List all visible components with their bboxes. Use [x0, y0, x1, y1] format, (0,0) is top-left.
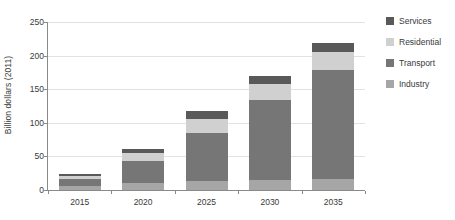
stacked-bar-chart: Billion dollars (2011) 050100150200250 S… — [0, 0, 455, 220]
legend-swatch-services — [386, 17, 394, 25]
bar-segment-services-2030[interactable] — [249, 76, 291, 84]
y-axis-tick-mark — [44, 190, 47, 191]
x-axis-tick-label-2025: 2025 — [197, 197, 216, 207]
legend-item-residential[interactable]: Residential — [386, 31, 455, 52]
bar-segment-services-2025[interactable] — [186, 111, 228, 118]
bar-group-2015[interactable] — [59, 22, 101, 190]
legend-item-transport[interactable]: Transport — [386, 52, 455, 73]
legend-item-industry[interactable]: Industry — [386, 73, 455, 94]
bar-segment-industry-2035[interactable] — [312, 179, 354, 190]
y-axis-tick-labels: 050100150200250 — [14, 22, 44, 190]
bar-segment-transport-2035[interactable] — [312, 70, 354, 180]
x-axis-tick-label-2015: 2015 — [70, 197, 89, 207]
x-axis-tick-mark — [302, 191, 303, 194]
bar-segment-residential-2015[interactable] — [59, 176, 101, 179]
x-axis-tick-label-2020: 2020 — [134, 197, 153, 207]
bar-group-2035[interactable] — [312, 22, 354, 190]
y-axis-tick-label: 0 — [18, 185, 44, 195]
bar-group-2025[interactable] — [186, 22, 228, 190]
y-axis-tick-mark — [44, 56, 47, 57]
bar-group-2020[interactable] — [122, 22, 164, 190]
legend-label-industry: Industry — [399, 79, 429, 89]
legend-swatch-residential — [386, 38, 394, 46]
bar-segment-services-2035[interactable] — [312, 43, 354, 52]
x-axis-tick-label-2030: 2030 — [260, 197, 279, 207]
bar-segment-industry-2020[interactable] — [122, 183, 164, 190]
bar-segment-services-2020[interactable] — [122, 149, 164, 153]
bar-segment-residential-2025[interactable] — [186, 119, 228, 133]
legend-label-residential: Residential — [399, 37, 441, 47]
y-axis-title-text: Billion dollars (2011) — [3, 56, 13, 135]
y-axis-tick-label: 100 — [18, 118, 44, 128]
bar-segment-residential-2020[interactable] — [122, 153, 164, 161]
x-axis-tick-mark — [175, 191, 176, 194]
bar-segment-transport-2020[interactable] — [122, 161, 164, 183]
x-axis-tick-mark — [238, 191, 239, 194]
plot-area — [48, 22, 365, 190]
y-axis-tick-mark — [44, 89, 47, 90]
legend-label-transport: Transport — [399, 58, 435, 68]
y-axis-tick-label: 200 — [18, 51, 44, 61]
y-axis-tick-mark — [44, 123, 47, 124]
y-axis-tick-mark — [44, 156, 47, 157]
bar-segment-industry-2015[interactable] — [59, 186, 101, 190]
x-axis-tick-mark — [48, 191, 49, 194]
bar-segment-residential-2035[interactable] — [312, 52, 354, 70]
legend-swatch-transport — [386, 59, 394, 67]
y-axis-tick-label: 250 — [18, 17, 44, 27]
bar-segment-services-2015[interactable] — [59, 174, 101, 176]
bar-segment-transport-2025[interactable] — [186, 133, 228, 181]
bar-segment-industry-2025[interactable] — [186, 181, 228, 190]
y-axis-tick-label: 150 — [18, 84, 44, 94]
x-axis-tick-mark — [111, 191, 112, 194]
bar-group-2030[interactable] — [249, 22, 291, 190]
bar-segment-residential-2030[interactable] — [249, 84, 291, 100]
x-axis-tick-mark — [365, 191, 366, 194]
chart-legend: ServicesResidentialTransportIndustry — [386, 10, 455, 94]
bar-segment-industry-2030[interactable] — [249, 180, 291, 190]
y-axis-tick-label: 50 — [18, 151, 44, 161]
bar-segment-transport-2030[interactable] — [249, 100, 291, 180]
bar-segment-transport-2015[interactable] — [59, 179, 101, 186]
legend-item-services[interactable]: Services — [386, 10, 455, 31]
legend-label-services: Services — [399, 16, 432, 26]
x-axis-tick-label-2035: 2035 — [324, 197, 343, 207]
y-axis-tick-mark — [44, 22, 47, 23]
legend-swatch-industry — [386, 80, 394, 88]
x-axis-line — [47, 190, 365, 191]
